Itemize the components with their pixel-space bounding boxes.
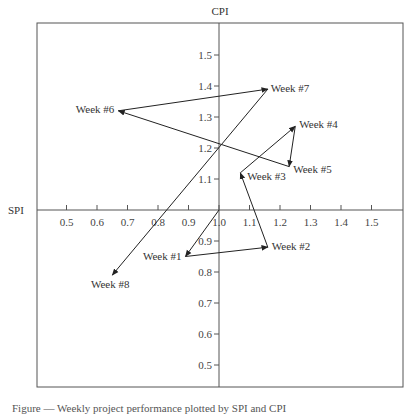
trajectory-segment: [112, 89, 268, 275]
y-tick-label: 0.7: [198, 297, 212, 309]
week-label: Week #1: [143, 250, 182, 262]
y-tick-label: 0.6: [198, 328, 212, 340]
x-tick-label: 0.5: [60, 216, 74, 228]
x-tick-label: 1.0: [212, 216, 226, 228]
week-label: Week #3: [247, 170, 286, 182]
y-axis-title: CPI: [211, 5, 228, 17]
figure-caption: Figure — Weekly project performance plot…: [12, 402, 286, 414]
y-tick-label: 0.5: [198, 359, 212, 371]
x-tick-label: 1.4: [334, 216, 348, 228]
week-label: Week #6: [76, 103, 115, 115]
x-tick-label: 0.6: [90, 216, 104, 228]
week-label: Week #8: [91, 278, 130, 290]
x-tick-label: 1.2: [273, 216, 287, 228]
trajectory-segment: [289, 126, 295, 166]
plot-frame: [37, 23, 403, 387]
week-label: Week #4: [299, 118, 338, 130]
trajectory-segment: [118, 89, 267, 111]
x-tick-label: 1.1: [243, 216, 257, 228]
x-tick-label: 1.3: [304, 216, 318, 228]
y-tick-label: 1.2: [198, 142, 212, 154]
y-tick-label: 0.8: [198, 266, 212, 278]
week-label: Week #2: [272, 240, 311, 252]
y-tick-label: 1.5: [198, 49, 212, 61]
week-label: Week #7: [271, 82, 310, 94]
x-ticks: 0.50.60.70.80.91.01.11.21.31.41.5: [60, 205, 379, 228]
y-tick-label: 1.3: [198, 111, 212, 123]
y-tick-label: 0.9: [198, 235, 212, 247]
trajectory-segment: [185, 247, 267, 256]
week-label: Week #5: [293, 163, 332, 175]
y-tick-label: 1.4: [198, 80, 212, 92]
x-tick-label: 0.9: [182, 216, 196, 228]
y-tick-label: 1.1: [198, 173, 212, 185]
x-tick-label: 1.5: [365, 216, 379, 228]
x-axis-title: SPI: [8, 204, 24, 216]
x-tick-label: 0.7: [121, 216, 135, 228]
